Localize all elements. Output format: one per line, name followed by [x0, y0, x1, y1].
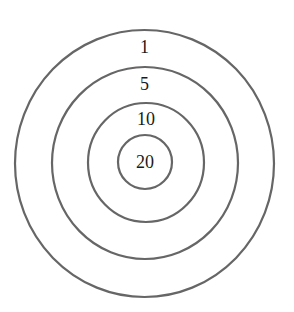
- target-svg: 1 5 10 20: [0, 0, 294, 312]
- target-diagram: 1 5 10 20: [0, 0, 294, 312]
- ring-label-inner: 20: [136, 152, 154, 172]
- ring-label-second: 5: [140, 74, 149, 94]
- ring-label-outer: 1: [140, 37, 149, 57]
- ring-label-third: 10: [137, 109, 155, 129]
